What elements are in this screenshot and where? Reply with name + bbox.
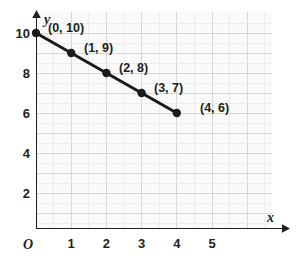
data-point [67,49,75,57]
data-point [102,69,110,77]
data-point [137,89,145,97]
x-tick-label-5: 5 [208,236,215,251]
y-axis-label: y [42,12,51,27]
x-tick-label-3: 3 [138,236,145,251]
y-tick-label-4: 4 [23,146,31,161]
y-tick-label-8: 8 [23,66,30,81]
point-label-4: (4, 6) [200,101,229,115]
x-tick-label-1: 1 [68,236,75,251]
data-point [173,109,181,117]
point-label-2: (2, 8) [119,61,148,75]
y-tick-label-2: 2 [23,186,30,201]
x-axis-arrowhead [282,224,290,233]
x-tick-label-2: 2 [103,236,110,251]
point-label-1: (1, 9) [84,41,113,55]
y-tick-label-6: 6 [23,106,30,121]
data-point [32,29,40,37]
line-chart: (0, 10) (1, 9) (2, 8) (3, 7) (4, 6) 10 8… [0,0,297,265]
x-axis-label: x [266,210,274,225]
x-tick-label-4: 4 [173,236,181,251]
y-tick-label-10: 10 [16,26,30,41]
chart-figure: (0, 10) (1, 9) (2, 8) (3, 7) (4, 6) 10 8… [0,0,297,265]
origin-label: O [23,237,33,252]
point-label-0: (0, 10) [48,21,84,35]
point-label-3: (3, 7) [154,81,183,95]
